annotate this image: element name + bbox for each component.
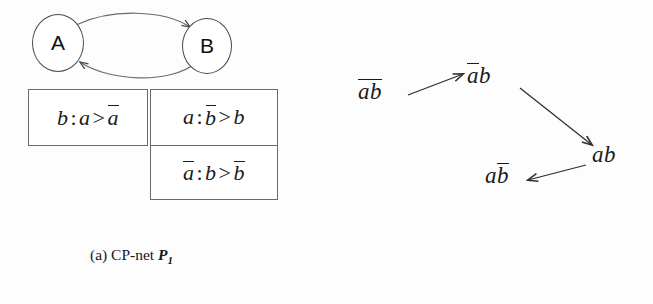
edge-n1-to-n2 (520, 88, 592, 145)
cpt-colon: : (194, 160, 205, 186)
preference-node-second-literal: b (497, 162, 509, 189)
caption-text: CP-net (111, 246, 154, 263)
cp-net-node-a-label: A (51, 31, 65, 55)
cpt-row: b : a > a (29, 90, 147, 145)
cpt-condition: b (57, 105, 69, 131)
cpt-colon: : (194, 104, 205, 130)
caption-tag: (a) (90, 246, 107, 263)
cpt-condition: a (183, 159, 195, 186)
panel-cp-net: A B b : a > a a : b > b a (0, 0, 330, 304)
preference-node: ab (467, 62, 491, 89)
cpt-preferred-value: b (205, 160, 217, 186)
cpt-preference-operator: > (217, 160, 234, 186)
preference-node-first-literal: a (358, 78, 370, 105)
cp-net-node-a: A (32, 14, 84, 72)
figure-cp-net-and-preference-graph: A B b : a > a a : b > b a (0, 0, 653, 304)
cp-net-node-b: B (182, 18, 232, 74)
caption-panel-a: (a) CP-net P1 (90, 246, 290, 268)
cpt-dispreferred-value: b (234, 104, 246, 130)
preference-node-first-literal: a (485, 163, 497, 188)
edge-a-to-b (76, 13, 190, 27)
edge-b-to-a (80, 62, 196, 78)
preference-node-second-literal: b (370, 78, 382, 105)
preference-node-first-literal: a (592, 142, 604, 167)
panel-induced-preference-graph: ab ab ab ab (b) Induced Preference Graph… (330, 0, 653, 304)
cpt-preference-operator: > (91, 105, 108, 131)
cpt-colon: : (68, 105, 79, 131)
cpt-preferred-value: b (205, 104, 217, 131)
cpt-condition: a (183, 104, 195, 130)
cpt-dispreferred-value: a (108, 104, 120, 131)
preference-graph-edges (330, 0, 653, 230)
preference-node: ab (358, 78, 382, 105)
caption-subscript: 1 (167, 254, 173, 266)
cpt-row: a : b > b (151, 146, 277, 201)
cpt-row: a : b > b (151, 90, 277, 146)
cpt-table-b: a : b > b a : b > b (150, 89, 278, 200)
edge-n2-to-n3 (528, 165, 586, 180)
edge-n0-to-n1 (408, 74, 463, 95)
cpt-preferred-value: a (79, 105, 91, 131)
preference-node: ab (485, 162, 509, 189)
cpt-table-a: b : a > a (28, 89, 148, 146)
cp-net-node-b-label: B (200, 34, 214, 58)
cpt-dispreferred-value: b (234, 159, 246, 186)
preference-node-second-literal: b (604, 142, 616, 167)
preference-node-second-literal: b (479, 63, 491, 88)
preference-node-first-literal: a (467, 62, 479, 89)
cpt-preference-operator: > (217, 104, 234, 130)
preference-node: ab (592, 142, 616, 168)
